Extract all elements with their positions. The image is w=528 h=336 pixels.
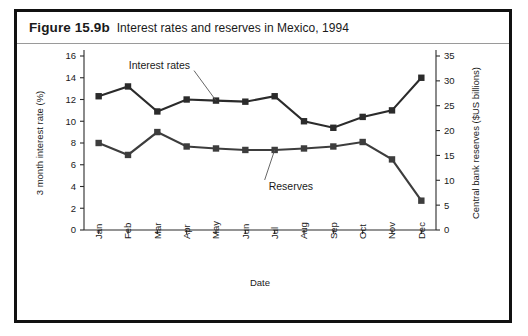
data-point-marker [271,93,277,99]
x-axis-tick-label: Mar [152,223,163,239]
figure-caption: Interest rates and reserves in Mexico, 1… [117,21,349,35]
y-axis-left-tick-label: 2 [71,203,76,214]
figure-panel: Figure 15.9b Interest rates and reserves… [14,9,512,323]
x-axis-tick-label: Aug [298,222,309,239]
x-axis-tick-label: May [210,221,221,239]
y-axis-right-tick-label: 15 [444,150,455,161]
data-point-marker [125,83,131,89]
y-axis-left-tick-label: 6 [71,159,76,170]
figure-title-bar: Figure 15.9b Interest rates and reserves… [17,12,509,44]
y-axis-right-tick-label: 20 [444,125,455,136]
annotation-label-reserves: Reserves [269,180,313,192]
data-point-marker [418,75,424,81]
data-point-marker [271,147,277,153]
data-point-marker [125,152,131,158]
y-axis-left-title: 3 month interest rate (%) [34,91,45,196]
data-point-marker [418,197,424,203]
y-axis-right-tick-label: 0 [444,224,449,235]
data-point-marker [154,108,160,114]
series-line-interest-rates [99,78,422,128]
y-axis-right-tick-label: 30 [444,75,455,86]
data-point-marker [359,114,365,120]
x-axis-title: Date [250,277,270,288]
annotation-label-interest-rates: Interest rates [129,59,190,71]
y-axis-left-tick-label: 16 [65,50,76,61]
data-point-marker [213,145,219,151]
y-axis-left-tick-label: 0 [71,224,76,235]
data-point-marker [242,98,248,104]
line-chart: 02468101214163 month interest rate (%)05… [17,44,509,323]
data-point-marker [95,93,101,99]
series-line-reserves [99,132,422,201]
x-axis-tick-label: Feb [122,223,133,239]
x-axis-tick-label: Oct [357,224,368,239]
data-point-marker [95,140,101,146]
y-axis-right-tick-label: 35 [444,50,455,61]
x-axis-tick-label: Dec [416,222,427,239]
annotation-leader-line [194,71,216,101]
annotation-leader-line [265,150,275,180]
x-axis-tick-label: Jun [240,224,251,239]
x-axis-tick-label: Jan [93,224,104,239]
data-point-marker [389,156,395,162]
data-point-marker [359,139,365,145]
data-point-marker [154,129,160,135]
y-axis-right-title: Central bank reserves ($US billions) [470,67,481,219]
data-point-marker [183,143,189,149]
y-axis-left-tick-label: 12 [65,94,76,105]
y-axis-left-tick-label: 8 [71,137,76,148]
data-point-marker [330,125,336,131]
data-point-marker [242,147,248,153]
y-axis-left-tick-label: 10 [65,116,76,127]
x-axis-tick-label: Apr [181,224,192,239]
data-point-marker [301,118,307,124]
figure-number: Figure 15.9b [29,20,110,35]
data-point-marker [183,96,189,102]
x-axis-tick-label: Jul [269,227,280,239]
data-point-marker [330,143,336,149]
data-point-marker [389,107,395,113]
y-axis-right-tick-label: 5 [444,200,449,211]
y-axis-right-tick-label: 10 [444,175,455,186]
x-axis-tick-label: Sep [328,222,339,239]
y-axis-right-tick-label: 25 [444,100,455,111]
y-axis-left-tick-label: 14 [65,72,76,83]
data-point-marker [301,145,307,151]
x-axis-tick-label: Nov [386,222,397,239]
y-axis-left-tick-label: 4 [71,181,76,192]
chart-plot-area: 02468101214163 month interest rate (%)05… [17,44,509,323]
